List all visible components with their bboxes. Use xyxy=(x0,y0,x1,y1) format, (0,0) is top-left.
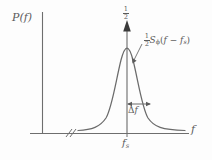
y-axis-label: P(f) xyxy=(12,12,32,23)
y-axis-label-arg: (f) xyxy=(19,11,32,24)
carrier-weight-numerator: 1 xyxy=(123,6,129,13)
carrier-weight-label: 12 xyxy=(123,6,129,21)
pedestal-annotation-numerator: 1 xyxy=(144,33,150,40)
psd-curve xyxy=(78,48,185,131)
pedestal-annotation-denominator: 2 xyxy=(144,40,150,48)
pedestal-annotation-close-paren: ) xyxy=(187,35,191,45)
pedestal-annotation-minus: − xyxy=(167,35,180,45)
linewidth-label: Δf xyxy=(128,106,138,115)
x-axis-label: f xyxy=(191,124,195,135)
pedestal-annotation: 12Sϕ(f − fs) xyxy=(144,33,190,48)
pedestal-annotation-fraction: 12 xyxy=(144,33,150,48)
carrier-weight-fraction: 12 xyxy=(123,6,129,21)
chart-canvas xyxy=(0,0,212,160)
xtick-label-fs: fs xyxy=(122,138,129,149)
xtick-label-fs-sub: s xyxy=(126,142,130,150)
delta-variable: f xyxy=(135,105,138,115)
psd-figure: P(f) f fs Δf 12 12Sϕ(f − fs) xyxy=(0,0,212,160)
annotation-leader-line xyxy=(132,44,142,64)
carrier-weight-denominator: 2 xyxy=(123,13,129,21)
carrier-impulse-arrow xyxy=(123,20,131,134)
